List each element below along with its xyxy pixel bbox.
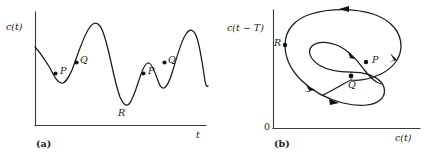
point-label-q1: Q <box>80 55 88 65</box>
caption-b: (b) <box>274 139 290 149</box>
flow-arrow-lower-left <box>304 85 315 92</box>
flow-arrow-inner <box>344 51 355 59</box>
point-label-q2: Q <box>168 55 176 65</box>
flow-arrow-right <box>389 53 397 62</box>
point-marker-q2 <box>162 60 166 64</box>
x-axis-label-a: t <box>196 130 200 140</box>
point-label-p2: P <box>148 66 154 76</box>
attractor-inner-loop <box>310 42 381 84</box>
point-label-q: Q <box>348 80 356 90</box>
x-axis-label-b: c(t) <box>395 133 412 143</box>
point-marker-q <box>349 74 354 79</box>
point-marker-p <box>364 60 368 64</box>
point-label-p: P <box>372 55 378 65</box>
y-axis-label-a: c(t) <box>6 22 23 32</box>
point-label-r1: R <box>118 108 125 118</box>
panel-a: c(t) t P Q R P Q (a) <box>0 0 215 160</box>
point-label-r: R <box>274 38 281 48</box>
point-marker-q1 <box>74 60 78 64</box>
y-axis-label-b: c(t − T) <box>227 23 264 33</box>
point-label-p1: P <box>60 66 66 76</box>
panel-a-plot <box>0 0 215 160</box>
figure-two-panel: c(t) t P Q R P Q (a) <box>0 0 430 160</box>
flow-arrow-top <box>339 6 349 12</box>
point-marker-p2 <box>141 71 145 75</box>
caption-a: (a) <box>36 139 51 149</box>
attractor-tail <box>323 80 351 95</box>
point-marker-r <box>283 43 287 47</box>
point-marker-p1 <box>53 71 57 75</box>
attractor-outer-loop <box>285 10 401 81</box>
origin-label-b: 0 <box>264 122 270 132</box>
panel-b: c(t − T) c(t) 0 R P Q (b) <box>215 0 430 160</box>
